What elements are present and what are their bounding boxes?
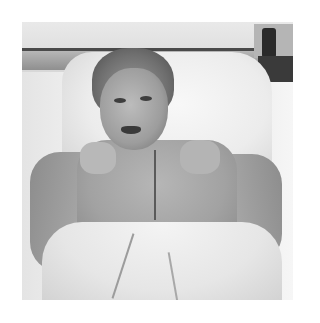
hospital-bed-photo bbox=[22, 22, 293, 300]
right-eye bbox=[140, 96, 152, 101]
blanket bbox=[42, 222, 282, 300]
left-eye bbox=[114, 98, 126, 103]
left-hand bbox=[80, 142, 116, 174]
face bbox=[100, 68, 168, 150]
mouth bbox=[121, 126, 141, 134]
chest-incision bbox=[154, 150, 156, 220]
call-device bbox=[262, 28, 276, 58]
right-hand bbox=[180, 140, 220, 174]
